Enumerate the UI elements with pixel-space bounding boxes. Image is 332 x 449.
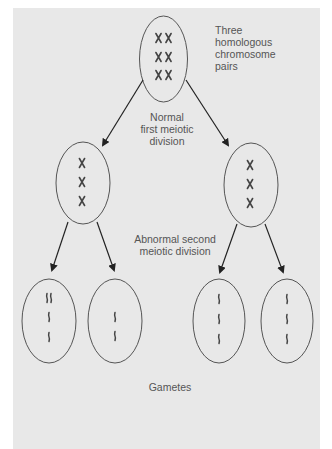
parent-cell [140, 16, 188, 102]
gamete-4-cell [261, 279, 313, 363]
first-division-label: Normal first meiotic division [127, 111, 207, 147]
chromosome-pair-2 [156, 53, 171, 62]
arrow-mid-left-to-gamete-2 [97, 222, 114, 270]
parent-cell-label: Three homologous chromosome pairs [215, 24, 276, 72]
mid-right-cell [224, 143, 278, 227]
arrow-mid-right-to-gamete-4 [265, 224, 283, 272]
chromosome-pair-3 [156, 71, 171, 80]
second-division-label: Abnormal second meiotic division [115, 233, 235, 257]
gamete-1-cell [22, 279, 76, 363]
chromosome-pair-1 [156, 34, 171, 43]
gamete-2-cell [88, 279, 142, 363]
mid-left-cell [56, 142, 110, 224]
arrow-mid-left-to-gamete-1 [52, 222, 68, 270]
gametes-label: Gametes [140, 381, 200, 393]
gamete-3-cell [193, 279, 245, 363]
